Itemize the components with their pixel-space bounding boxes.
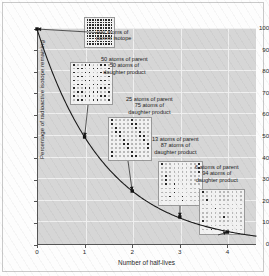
callout-halflife-1: 50 atoms of parent 50 atoms of daughter …	[101, 56, 148, 75]
ytick-label-50: 50	[239, 133, 269, 139]
atom-box-halflife-2	[108, 117, 152, 161]
xtick-mark-4	[227, 245, 228, 248]
xtick-mark-3	[180, 245, 181, 248]
ytick-mark-20	[34, 201, 37, 202]
ytick-label-30: 30	[239, 176, 269, 182]
callout-halflife-4: 6 atoms of parent 94 atoms of daughter p…	[195, 164, 239, 183]
gridline-90	[38, 49, 256, 50]
callout-3-line-3: daughter product	[152, 149, 199, 155]
atom-parent	[110, 43, 113, 46]
xtick-label-2: 2	[125, 249, 139, 255]
atom-daughter	[146, 155, 150, 159]
callout-4-line-3: daughter product	[195, 177, 239, 183]
xtick-mark-1	[85, 245, 86, 248]
callout-halflife-2: 25 atoms of parent 75 atoms of daughter …	[126, 96, 173, 115]
xtick-label-3: 3	[173, 249, 187, 255]
callout-halflife-0: 100 atoms of parent isotope	[96, 29, 131, 42]
xtick-mark-0	[37, 245, 38, 248]
ytick-mark-50	[34, 137, 37, 138]
decay-curve-figure: 0 10 20 30 40 50 60 70 80 90 100 0 1 2 3…	[0, 0, 269, 276]
ytick-mark-100	[34, 29, 37, 30]
ytick-label-100: 100	[239, 25, 269, 31]
ytick-mark-10	[34, 223, 37, 224]
ytick-label-0: 0	[239, 241, 269, 247]
atom-daughter	[239, 229, 243, 233]
ytick-mark-30	[34, 180, 37, 181]
xtick-mark-2	[132, 245, 133, 248]
callout-1-line-3: daughter product	[101, 69, 148, 75]
atom-parent	[107, 99, 111, 103]
ytick-mark-70	[34, 93, 37, 94]
callout-0-line-2: parent isotope	[96, 35, 131, 41]
ytick-label-40: 40	[239, 155, 269, 161]
ytick-mark-40	[34, 158, 37, 159]
ytick-label-90: 90	[239, 47, 269, 53]
xtick-label-1: 1	[78, 249, 92, 255]
xtick-label-0: 0	[30, 249, 44, 255]
ytick-mark-90	[34, 50, 37, 51]
ytick-label-70: 70	[239, 90, 269, 96]
y-axis-label: Percentage of radioactive isotope remain…	[38, 40, 45, 160]
atom-box-halflife-4	[199, 189, 245, 235]
xtick-label-4: 4	[220, 249, 234, 255]
ytick-label-60: 60	[239, 111, 269, 117]
ytick-label-80: 80	[239, 68, 269, 74]
gridline-100	[38, 28, 256, 29]
ytick-mark-60	[34, 115, 37, 116]
callout-2-line-3: daughter product	[126, 109, 173, 115]
ytick-mark-80	[34, 72, 37, 73]
callout-halflife-3: 13 atoms of parent 87 atoms of daughter …	[152, 136, 199, 155]
x-axis-label: Number of half-lives	[37, 259, 256, 266]
